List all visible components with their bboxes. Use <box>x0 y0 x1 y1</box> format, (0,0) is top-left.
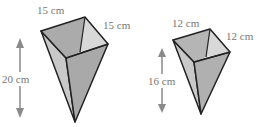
large-height-label: 20 cm <box>2 74 29 85</box>
large-top-edge-label: 15 cm <box>37 5 64 16</box>
arrow-down-icon <box>16 108 24 118</box>
small-pyramid <box>145 29 230 114</box>
large-pyramid <box>2 17 108 122</box>
arrow-up-icon <box>16 38 24 48</box>
small-top-edge-label: 12 cm <box>172 18 199 29</box>
small-side-edge-label: 12 cm <box>226 31 253 42</box>
small-height-label: 16 cm <box>148 76 175 87</box>
large-side-edge-label: 15 cm <box>103 20 130 31</box>
